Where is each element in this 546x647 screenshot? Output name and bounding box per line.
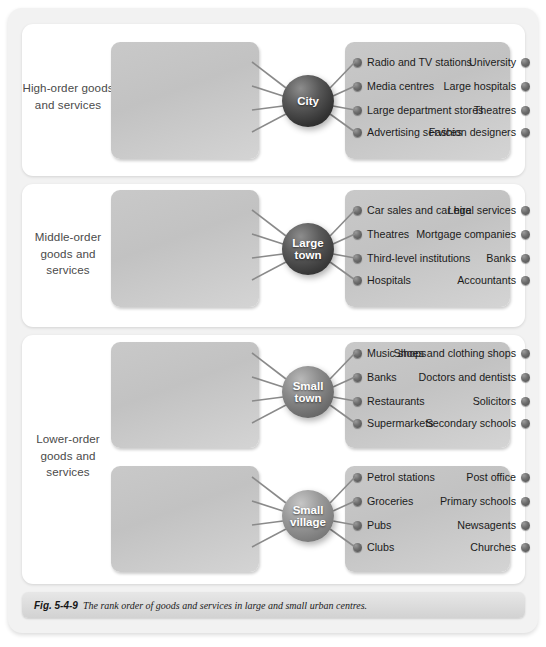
list-item[interactable]: Post office [466,469,530,485]
item-label: Radio and TV stations [367,56,472,68]
item-label: Doctors and dentists [419,371,516,383]
list-item[interactable]: Hospitals [353,272,411,288]
cluster-box-city-left [111,42,259,159]
list-item[interactable]: Newsagents [457,517,530,533]
node-dot-icon [353,276,362,285]
node-dot-icon [353,58,362,67]
item-label: University [469,56,516,68]
node-dot-icon [521,58,530,67]
list-item[interactable]: Petrol stations [353,469,435,485]
node-dot-icon [353,473,362,482]
list-item[interactable]: Pubs [353,517,391,533]
item-label: Restaurants [367,395,425,407]
hub-label-line: Large [292,237,323,250]
item-label: Churches [470,541,516,553]
list-item[interactable]: Large hospitals [444,78,531,94]
list-item[interactable]: Primary schools [440,493,530,509]
hub-label-line: City [297,95,319,108]
figure-frame: High-order goods and services University… [8,8,538,633]
item-label: Theatres [367,228,409,240]
node-dot-icon [521,206,530,215]
list-item[interactable]: Doctors and dentists [419,369,530,385]
node-dot-icon [521,106,530,115]
list-item[interactable]: Large department stores [353,102,483,118]
node-dot-icon [521,473,530,482]
node-dot-icon [353,419,362,428]
list-item[interactable]: Accountants [457,272,530,288]
hub-label-line: Small [293,504,324,517]
hub-node-large-town[interactable]: Large town [282,223,334,275]
node-dot-icon [353,521,362,530]
cluster-box-large-town-left [111,190,259,307]
item-label: Banks [486,252,516,264]
item-label: Secondary schools [426,417,516,429]
hub-node-small-village[interactable]: Small village [282,490,334,542]
node-dot-icon [353,230,362,239]
node-dot-icon [521,373,530,382]
item-label: Petrol stations [367,471,435,483]
node-dot-icon [521,254,530,263]
item-label: Post office [466,471,516,483]
list-item[interactable]: University [469,54,530,70]
node-dot-icon [353,349,362,358]
figure-caption: Fig. 5-4-9 The rank order of goods and s… [22,592,525,618]
list-item[interactable]: Media centres [353,78,434,94]
list-item[interactable]: Churches [470,539,530,555]
item-label: Supermarkets [367,417,434,429]
node-dot-icon [353,82,362,91]
item-label: Groceries [367,495,413,507]
list-item[interactable]: Secondary schools [426,415,530,431]
list-item[interactable]: Theatres [353,226,409,242]
list-item[interactable]: Clubs [353,539,394,555]
node-dot-icon [353,254,362,263]
item-label: Large hospitals [444,80,517,92]
item-label: Car sales and car hire [367,204,472,216]
item-label: Media centres [367,80,434,92]
list-item[interactable]: Solicitors [473,393,530,409]
node-dot-icon [353,373,362,382]
node-dot-icon [521,349,530,358]
list-item[interactable]: Advertising services [353,124,462,140]
item-label: Banks [367,371,397,383]
node-dot-icon [353,106,362,115]
rank-label-high-order: High-order goods and services [22,80,114,113]
node-dot-icon [521,128,530,137]
list-item[interactable]: Banks [353,369,397,385]
list-item[interactable]: Supermarkets [353,415,434,431]
list-item[interactable]: Music shops [353,345,426,361]
list-item[interactable]: Banks [486,250,530,266]
item-label: Pubs [367,519,391,531]
item-label: Third-level institutions [367,252,470,264]
hub-label-line: Small [293,380,324,393]
item-label: Clubs [367,541,394,553]
list-item[interactable]: Groceries [353,493,413,509]
node-dot-icon [521,543,530,552]
rank-label-lower-order: Lower-order goods and services [22,431,114,481]
hub-label-line: town [295,392,322,405]
node-dot-icon [521,276,530,285]
item-label: Accountants [457,274,516,286]
cluster-box-small-village-left [111,466,259,572]
figure-number: Fig. 5-4-9 [34,600,78,611]
figure-caption-text: The rank order of goods and services in … [83,600,367,611]
node-dot-icon [521,397,530,406]
list-item[interactable]: Radio and TV stations [353,54,472,70]
item-label: Newsagents [457,519,516,531]
list-item[interactable]: Restaurants [353,393,425,409]
item-label: Mortgage companies [416,228,516,240]
cluster-box-small-town-left [111,342,259,448]
node-dot-icon [521,521,530,530]
item-label: Large department stores [367,104,483,116]
item-label: Solicitors [473,395,516,407]
rank-label-middle-order: Middle-order goods and services [22,229,114,279]
node-dot-icon [353,397,362,406]
node-dot-icon [353,543,362,552]
hub-node-small-town[interactable]: Small town [282,366,334,418]
item-label: Primary schools [440,495,516,507]
hub-node-city[interactable]: City [282,75,334,127]
item-label: Music shops [367,347,426,359]
list-item[interactable]: Car sales and car hire [353,202,472,218]
hub-label-line: village [290,516,326,529]
list-item[interactable]: Mortgage companies [416,226,530,242]
list-item[interactable]: Third-level institutions [353,250,470,266]
